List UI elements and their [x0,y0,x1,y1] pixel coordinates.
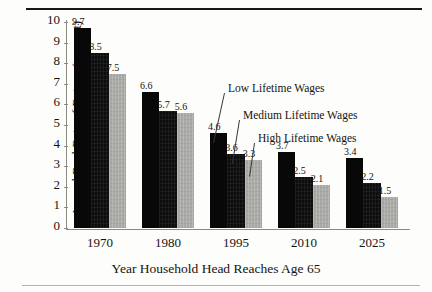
bar-value-label: 6.6 [140,81,153,91]
bar[interactable]: 3.6 [227,154,244,228]
bar-slot: 5.7 [159,22,176,228]
bar[interactable]: 8.5 [91,53,108,228]
y-axis-tick-label: 8 [54,54,61,67]
bar-group: 3.42.21.5 [346,22,398,228]
bar-slot: 2.5 [295,22,312,228]
bar[interactable]: 5.6 [177,113,194,228]
bar-value-label: 9.7 [72,17,85,27]
x-axis-category-label: 2025 [332,236,412,249]
y-axis-tick-label: 10 [47,13,60,26]
y-axis-tick-mark [64,228,68,229]
bar[interactable]: 3.4 [346,158,363,228]
y-axis-tick-label: 1 [54,198,61,211]
y-axis-tick-mark [64,146,68,147]
series-annotation-label: Medium Lifetime Wages [243,110,357,122]
y-axis-tick-label: 5 [54,116,61,129]
bar[interactable]: 3.3 [245,160,262,228]
bar-group: 6.65.75.6 [142,22,194,228]
bar-value-label: 8.5 [89,42,102,52]
y-axis-tick-mark [64,84,68,85]
bar[interactable]: 2.1 [313,185,330,228]
bar[interactable]: 9.7 [74,28,91,228]
bar-value-label: 4.6 [208,122,221,132]
bar-value-label: 7.5 [107,63,120,73]
bar-value-label: 2.2 [361,172,374,182]
y-axis-tick-mark [64,104,68,105]
y-axis-tick-mark [64,207,68,208]
y-axis-tick-label: 4 [54,137,61,150]
bar-slot: 3.3 [245,22,262,228]
x-axis-line [66,229,410,230]
bar[interactable]: 2.5 [295,177,312,229]
bar[interactable]: 5.7 [159,111,176,228]
bar-slot: 3.7 [278,22,295,228]
bar-slot: 2.1 [313,22,330,228]
series-annotation-label: Low Lifetime Wages [228,83,325,95]
y-axis-tick-mark [64,22,68,23]
y-axis-tick-mark [64,63,68,64]
bar-slot: 8.5 [91,22,108,228]
bar[interactable]: 6.6 [142,92,159,228]
bar-slot: 4.6 [210,22,227,228]
series-annotation-label: High Lifetime Wages [258,133,357,145]
page-rule-top [26,8,422,10]
y-axis-tick-mark [64,187,68,188]
bar-value-label: 2.1 [311,174,324,184]
page-rule-bottom [22,285,420,286]
bar-slot: 7.5 [109,22,126,228]
bar-value-label: 1.5 [379,186,392,196]
y-axis-tick-label: 9 [54,34,61,47]
y-axis-tick-mark [64,166,68,167]
y-axis-tick-label: 3 [54,157,61,170]
bar[interactable]: 1.5 [381,197,398,228]
bar-slot: 3.4 [346,22,363,228]
y-axis-tick-label: 0 [54,219,61,232]
bar-value-label: 3.4 [344,147,357,157]
bar-slot: 1.5 [381,22,398,228]
bar-slot: 6.6 [142,22,159,228]
bar-value-label: 5.6 [175,102,188,112]
y-axis-tick-label: 2 [54,178,61,191]
x-axis-title: Year Household Head Reaches Age 65 [0,262,432,276]
y-axis-tick-mark [64,125,68,126]
y-axis-tick-label: 7 [54,75,61,88]
bar-group: 9.78.57.5 [74,22,126,228]
bar-chart-figure: Annual Real Rate of Return (percent) 012… [0,0,432,292]
bar[interactable]: 7.5 [109,74,126,229]
bar-slot: 9.7 [74,22,91,228]
bar-value-label: 2.5 [293,166,306,176]
bar[interactable]: 3.7 [278,152,295,228]
bar-value-label: 5.7 [157,100,170,110]
y-axis-tick-mark [64,43,68,44]
y-axis-tick-label: 6 [54,95,61,108]
bar-slot: 2.2 [363,22,380,228]
bar-slot: 3.6 [227,22,244,228]
bar-slot: 5.6 [177,22,194,228]
bar-group: 3.72.52.1 [278,22,330,228]
